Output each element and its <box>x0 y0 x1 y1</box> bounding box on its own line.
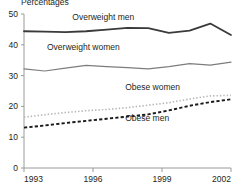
series-label: Obese women <box>125 82 180 92</box>
y-tick-label: 0 <box>13 163 18 173</box>
series-label: Obese men <box>125 113 169 123</box>
series-label: Overweight women <box>47 42 120 52</box>
series-line <box>24 24 231 35</box>
x-tick-label: 2002 <box>212 174 231 184</box>
series-lines <box>24 24 231 128</box>
x-tick-label: 1993 <box>24 174 43 184</box>
chart-plot-area: 01020304050 1993199619992002 Overweight … <box>0 0 246 191</box>
chart-container: Percentages 01020304050 1993199619992002… <box>0 0 246 191</box>
y-tick-label: 40 <box>9 40 19 50</box>
y-tick-label: 20 <box>9 101 19 111</box>
series-label: Overweight men <box>72 12 134 22</box>
y-tick-label: 50 <box>9 9 19 19</box>
x-axis: 1993199619992002 <box>24 168 231 184</box>
y-tick-label: 10 <box>9 132 19 142</box>
y-tick-label: 30 <box>9 71 19 81</box>
y-axis: 01020304050 <box>9 9 24 173</box>
series-line <box>24 62 231 71</box>
x-tick-label: 1999 <box>153 174 172 184</box>
x-tick-label: 1996 <box>84 174 103 184</box>
